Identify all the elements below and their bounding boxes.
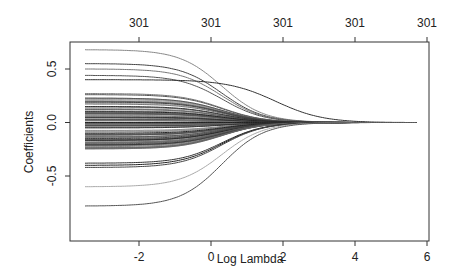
top-axis: 301301301301301 <box>129 16 437 42</box>
top-tick-label: 301 <box>201 16 221 30</box>
top-tick-label: 301 <box>129 16 149 30</box>
coefficient-path-chart: -20246 -0.50.00.5 301301301301301 Log La… <box>0 0 456 274</box>
x-axis-label: Log Lambda <box>217 252 284 266</box>
y-axis-label: Coefficients <box>22 111 36 173</box>
x-tick-label: 6 <box>424 250 431 264</box>
y-tick-label: 0.0 <box>45 114 59 131</box>
x-tick-label: -2 <box>134 250 145 264</box>
y-tick-label: 0.5 <box>45 60 59 77</box>
y-axis: -0.50.00.5 <box>45 60 70 186</box>
x-tick-label: 4 <box>352 250 359 264</box>
top-tick-label: 301 <box>417 16 437 30</box>
coefficient-paths <box>85 50 416 206</box>
top-tick-label: 301 <box>273 16 293 30</box>
y-tick-label: -0.5 <box>45 165 59 186</box>
top-tick-label: 301 <box>345 16 365 30</box>
x-tick-label: 0 <box>208 250 215 264</box>
